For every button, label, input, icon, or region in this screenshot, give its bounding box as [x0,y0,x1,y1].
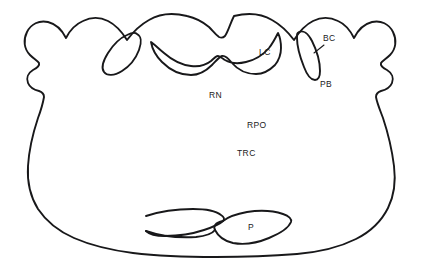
label-bc: BC [323,34,336,43]
brainstem-outer-outline [25,14,396,257]
label-pb: PB [320,80,332,89]
label-p: P [248,223,254,232]
label-lc: LC [259,48,271,57]
label-rpo: RPO [247,121,267,130]
label-rn: RN [209,91,222,100]
right-elongated-nucleus-oval [297,31,320,80]
brainstem-outline-drawing [0,0,427,258]
figure-canvas: LC BC PB RN RPO TRC P [0,0,427,258]
left-elongated-nucleus-oval [103,33,141,75]
label-trc: TRC [237,149,256,158]
